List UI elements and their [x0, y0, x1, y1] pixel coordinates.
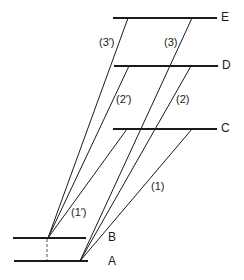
- transition-label-1: (1): [151, 181, 164, 192]
- level-label-a: A: [108, 255, 116, 267]
- transition-lines: [48, 18, 192, 261]
- transition-label-3: (3): [164, 37, 177, 48]
- transition-a-d: [80, 66, 191, 261]
- transition-label-2prime: (2′): [116, 94, 132, 105]
- transition-b-c: [48, 129, 127, 238]
- transition-a-c: [80, 129, 192, 261]
- transition-b-e: [48, 18, 128, 238]
- level-label-c: C: [221, 122, 230, 134]
- transition-label-1prime: (1′): [71, 207, 87, 218]
- level-label-d: D: [222, 59, 231, 71]
- level-label-b: B: [108, 231, 116, 243]
- transition-a-e: [80, 18, 192, 261]
- transition-label-2: (2): [176, 94, 189, 105]
- level-label-e: E: [221, 11, 229, 23]
- transition-b-d: [48, 66, 129, 238]
- transition-label-3prime: (3′): [99, 37, 115, 48]
- energy-level-diagram: [0, 0, 244, 280]
- level-lines: [13, 18, 218, 261]
